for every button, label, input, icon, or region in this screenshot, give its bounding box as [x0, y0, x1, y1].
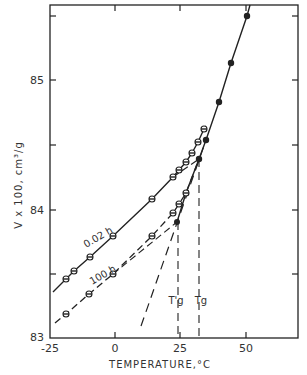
- tg-label: Tg: [194, 295, 207, 306]
- x-tick-0: 0: [112, 342, 119, 355]
- x-tick-25: 25: [173, 342, 187, 355]
- y-ticks: [50, 16, 298, 274]
- label-100h: 100 h: [88, 263, 118, 287]
- x-tick-neg25: -25: [41, 342, 59, 355]
- series-002h-markers: [63, 126, 207, 282]
- y-axis-title: V x 100, cm³/g: [13, 141, 24, 229]
- plot-frame: [50, 5, 298, 338]
- glass-extrapolation-100h: [113, 222, 177, 274]
- label-002h: 0.02 h: [82, 224, 115, 249]
- y-tick-84: 84: [30, 204, 44, 217]
- chart: 85 84 83 -25 0 25 50 TEMPERATURE,°C V x …: [0, 0, 307, 375]
- x-tick-50: 50: [239, 342, 253, 355]
- y-tick-85: 85: [30, 74, 44, 87]
- series-002h-line: [53, 126, 206, 292]
- tg-prime-label: T'g: [167, 295, 183, 306]
- liquid-line: [177, 5, 250, 222]
- x-axis-title: TEMPERATURE,°C: [108, 359, 211, 370]
